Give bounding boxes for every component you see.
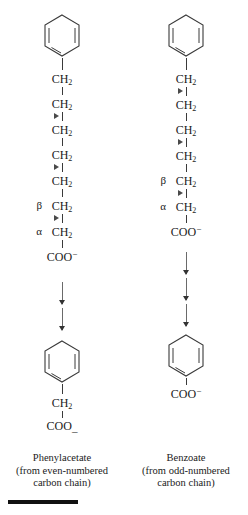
cleavage-marker-bond [0, 112, 124, 121]
alpha-label: α [36, 226, 42, 237]
chain-unit-beta: β CH2 [0, 197, 124, 214]
ch2-label: CH2 [176, 99, 197, 111]
ch2-label: CH2 [52, 98, 73, 110]
chain-unit: CH2 [0, 172, 124, 189]
bottom-rule [8, 500, 78, 504]
bond [186, 113, 187, 121]
cleavage-marker-bond [124, 138, 248, 147]
ch2-label: CH2 [176, 201, 197, 213]
chain-unit: CH2 [124, 96, 248, 113]
ch2-label: CH2 [176, 124, 197, 136]
benzoate-column: CH2 CH2 CH2 CH2 β [124, 0, 248, 515]
beta-label: β [36, 200, 42, 211]
ch2-label: CH2 [52, 124, 73, 136]
right-caption: Benzoate (from odd-numbered carbon chain… [124, 452, 248, 490]
chain-unit: CH2 [0, 70, 124, 87]
chain-unit-alpha: α CH2 [124, 198, 248, 215]
ch2-label: CH2 [52, 149, 73, 161]
bond [186, 215, 187, 223]
reaction-arrow [124, 252, 248, 278]
product-note-line1: (from even-numbered [0, 465, 124, 478]
ch2-label: CH2 [176, 175, 197, 187]
carboxylate-group: COO− [0, 248, 124, 265]
bond [62, 138, 63, 146]
bond [62, 384, 63, 394]
bond-ring-to-chain [62, 58, 63, 70]
phenylacetate-column: CH2 CH2 CH2 CH2 CH2 [0, 0, 124, 515]
left-product-structure: CH2 COO_ [0, 340, 124, 435]
reaction-arrow [0, 308, 124, 334]
cleavage-marker-bond [124, 189, 248, 198]
ch2-label: CH2 [52, 73, 73, 85]
alpha-label: α [160, 201, 166, 212]
cleavage-triangle-icon [54, 215, 59, 221]
ch2-label: CH2 [176, 150, 197, 162]
bond-ring-to-chain [186, 58, 187, 70]
right-substrate-structure: CH2 CH2 CH2 CH2 β [124, 14, 248, 240]
reaction-arrow [0, 282, 124, 308]
product-carboxylate: COO_ [0, 418, 124, 435]
reaction-diagram: CH2 CH2 CH2 CH2 CH2 [0, 0, 248, 515]
cleavage-marker-bond [0, 163, 124, 172]
chain-unit: CH2 [124, 70, 248, 87]
cleavage-triangle-icon [54, 164, 59, 170]
cleavage-triangle-icon [178, 190, 183, 196]
product-name: Phenylacetate [0, 452, 124, 465]
product-note-line1: (from odd-numbered [124, 465, 248, 478]
chain-unit-alpha: α CH2 [0, 223, 124, 240]
reaction-arrow [124, 278, 248, 304]
carboxylate-group: COO− [124, 223, 248, 240]
ch2-label: CH2 [52, 226, 73, 238]
bond [62, 411, 63, 418]
ch2-label: CH2 [52, 397, 73, 409]
chain-unit-beta: β CH2 [124, 172, 248, 189]
chain-unit: CH2 [124, 147, 248, 164]
ch2-label: CH2 [52, 200, 73, 212]
cleavage-marker-bond [0, 214, 124, 223]
ch2-label: CH2 [52, 175, 73, 187]
coo-label: COO− [171, 388, 201, 400]
bond [62, 87, 63, 95]
product-carboxylate: COO− [124, 385, 248, 402]
benzene-ring-icon [43, 340, 81, 384]
left-caption: Phenylacetate (from even-numbered carbon… [0, 452, 124, 490]
chain-unit: CH2 [0, 146, 124, 163]
product-name: Benzoate [124, 452, 248, 465]
coo-label: COO− [47, 251, 77, 263]
cleavage-triangle-icon [178, 139, 183, 145]
ch2-label: CH2 [176, 73, 197, 85]
benzene-ring-icon [167, 14, 205, 58]
coo-label: COO_ [47, 420, 78, 433]
chain-unit: CH2 [124, 121, 248, 138]
bond [62, 189, 63, 197]
benzene-ring-icon [167, 334, 205, 378]
coo-label: COO− [171, 226, 201, 238]
right-product-structure: COO− [124, 334, 248, 402]
product-ch2: CH2 [0, 394, 124, 411]
bond [186, 164, 187, 172]
cleavage-triangle-icon [54, 113, 59, 119]
beta-label: β [160, 175, 166, 186]
left-substrate-structure: CH2 CH2 CH2 CH2 CH2 [0, 14, 124, 265]
chain-unit: CH2 [0, 121, 124, 138]
chain-unit: CH2 [0, 95, 124, 112]
benzene-ring-icon [43, 14, 81, 58]
bond [62, 240, 63, 248]
product-note-line2: carbon chain) [124, 477, 248, 490]
product-note-line2: carbon chain) [0, 477, 124, 490]
bond [186, 378, 187, 385]
reaction-arrow [124, 304, 248, 330]
cleavage-triangle-icon [178, 88, 183, 94]
cleavage-marker-bond [124, 87, 248, 96]
